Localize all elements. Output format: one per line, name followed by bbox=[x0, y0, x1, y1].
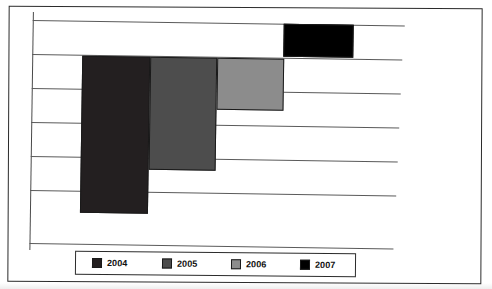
y-axis bbox=[29, 12, 34, 250]
legend-item-list: 2004200520062007 bbox=[76, 252, 355, 276]
legend-swatch-2007 bbox=[300, 260, 310, 270]
bar-2004 bbox=[80, 56, 150, 214]
gridline-6 bbox=[29, 243, 393, 249]
bar-2007 bbox=[283, 24, 353, 58]
legend-item-2007: 2007 bbox=[300, 254, 336, 276]
legend-swatch-2005 bbox=[162, 259, 172, 269]
scan-canvas: 2004200520062007 bbox=[0, 0, 492, 289]
legend-label-2006: 2006 bbox=[246, 259, 267, 269]
chart-legend: 2004200520062007 bbox=[75, 251, 356, 277]
legend-swatch-2004 bbox=[92, 258, 102, 268]
bar-2005 bbox=[149, 57, 218, 171]
legend-label-2004: 2004 bbox=[107, 258, 128, 268]
legend-label-2007: 2007 bbox=[315, 260, 336, 270]
legend-swatch-2006 bbox=[231, 259, 241, 269]
legend-label-2005: 2005 bbox=[177, 259, 198, 269]
legend-item-2004: 2004 bbox=[92, 252, 128, 274]
legend-item-2006: 2006 bbox=[231, 253, 267, 275]
bar-2006 bbox=[216, 58, 284, 111]
bar-chart bbox=[0, 0, 492, 289]
legend-item-2005: 2005 bbox=[162, 253, 198, 275]
